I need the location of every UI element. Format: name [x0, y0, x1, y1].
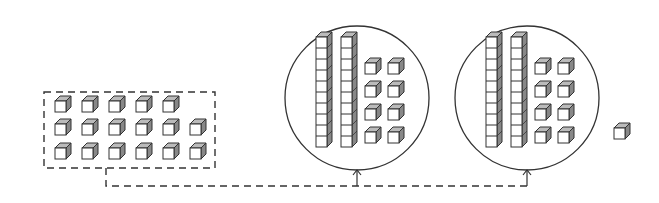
unit-cube — [365, 81, 381, 97]
up-arrow-icon — [353, 170, 361, 186]
unit-cube — [535, 104, 551, 120]
tens-rod — [486, 32, 502, 147]
group-1-circle — [285, 26, 429, 170]
unit-cube — [614, 123, 630, 139]
dashed-connector-line — [106, 168, 531, 186]
unit-cube — [365, 58, 381, 74]
unit-cube — [388, 104, 404, 120]
up-arrow-icon — [523, 170, 531, 186]
unit-cube — [190, 119, 206, 135]
unit-cube — [82, 119, 98, 135]
leftover-cube — [614, 123, 630, 139]
unit-cube — [82, 143, 98, 159]
unit-cube — [190, 143, 206, 159]
unit-cube — [365, 104, 381, 120]
tens-rod — [316, 32, 332, 147]
unit-cube — [55, 96, 71, 112]
tens-rod — [511, 32, 527, 147]
unit-cube — [535, 81, 551, 97]
base-ten-diagram: 17 unit cubes Group 1 Group 2 1 unit cub… — [0, 0, 659, 203]
unit-cube — [163, 119, 179, 135]
unit-cube — [535, 127, 551, 143]
unit-cube — [109, 96, 125, 112]
unit-cube — [109, 119, 125, 135]
group-2-circle — [455, 26, 599, 170]
unit-cube — [558, 58, 574, 74]
unit-cube — [55, 143, 71, 159]
unit-cube — [558, 104, 574, 120]
unit-cube — [388, 81, 404, 97]
unit-cube — [388, 58, 404, 74]
unit-cube — [109, 143, 125, 159]
unit-cube — [163, 143, 179, 159]
unit-cube — [388, 127, 404, 143]
unit-cube — [55, 119, 71, 135]
unit-cube — [136, 96, 152, 112]
unit-cube — [136, 143, 152, 159]
unit-cube — [82, 96, 98, 112]
unit-cube — [535, 58, 551, 74]
connector-path — [106, 168, 527, 186]
unit-cube — [558, 127, 574, 143]
unit-cube — [558, 81, 574, 97]
ungrouped-cubes-box — [44, 92, 215, 168]
tens-rod — [341, 32, 357, 147]
unit-cube — [163, 96, 179, 112]
unit-cube — [136, 119, 152, 135]
unit-cube — [365, 127, 381, 143]
